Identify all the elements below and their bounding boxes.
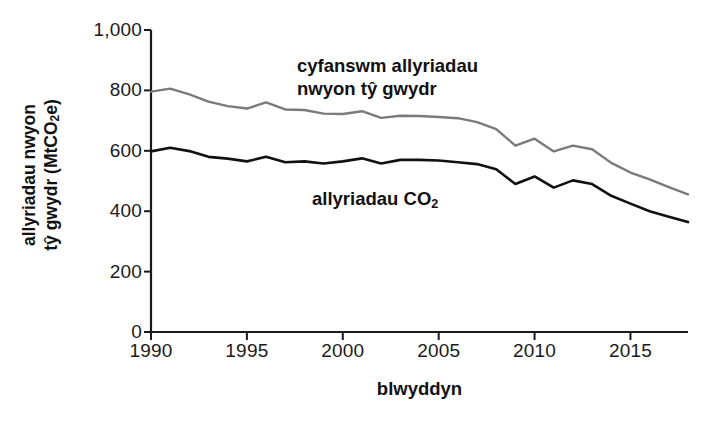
series-label-co2: allyriadau CO2 [312, 188, 438, 212]
x-axis-title: blwyddyn [151, 378, 688, 400]
chart-figure: allyriadau nwyon tŷ gwydr (MtCO2e) 02004… [0, 0, 702, 438]
series-label-co2-subscript: 2 [431, 197, 438, 211]
series-label-ghg: cyfanswm allyriadau nwyon tŷ gwydr [297, 55, 478, 100]
series-label-co2-text: allyriadau CO [312, 188, 431, 209]
series-label-ghg-line1: cyfanswm allyriadau [297, 55, 478, 78]
series-line-ghg [151, 89, 688, 195]
series-label-ghg-line2: nwyon tŷ gwydr [297, 78, 478, 101]
